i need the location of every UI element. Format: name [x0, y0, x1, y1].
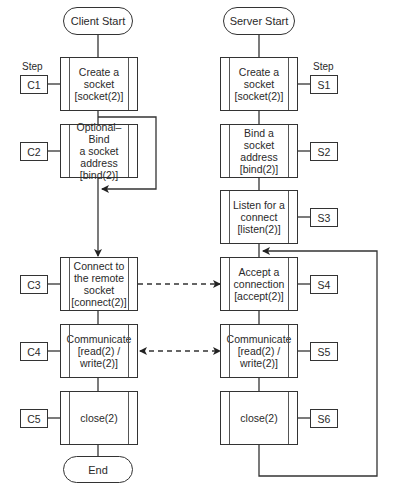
step-label-s5: S5	[310, 342, 338, 361]
c5-text: close(2)	[71, 412, 126, 424]
step-label-s4: S4	[310, 275, 338, 294]
client-end-terminal: End	[63, 456, 133, 483]
server-step-s2: Bind a socket address [bind(2)]	[220, 124, 298, 178]
server-start-terminal: Server Start	[223, 7, 295, 35]
s3-text: Listen for a connect [listen(2)]	[224, 199, 294, 235]
step-label-s3: S3	[310, 208, 338, 227]
server-step-s5: Communicate [read(2) / write(2)]	[220, 324, 298, 378]
client-step-c5: close(2)	[60, 391, 138, 445]
step-label-s1: S1	[310, 75, 338, 94]
step-label-c3: C3	[20, 275, 48, 294]
client-step-c1: Create a socket [socket(2)]	[60, 57, 138, 111]
s6-text: close(2)	[231, 412, 286, 424]
step-label-c2: C2	[20, 142, 48, 161]
s2-text: Bind a socket address [bind(2)]	[221, 127, 297, 175]
s4-text: Accept a connection [accept(2)]	[225, 266, 294, 302]
c2-text: Optional–Bind a socket address [bind(2)]	[61, 121, 137, 181]
c3-text: Connect to the remote socket [connect(2)…	[62, 260, 135, 308]
server-step-heading: Step	[313, 61, 334, 72]
c1-text: Create a socket [socket(2)]	[65, 66, 132, 102]
s5-text: Communicate [read(2) / write(2)]	[218, 333, 301, 369]
step-label-s2: S2	[310, 142, 338, 161]
step-label-c5: C5	[20, 409, 48, 428]
server-step-s6: close(2)	[220, 391, 298, 445]
client-start-terminal: Client Start	[63, 7, 133, 35]
socket-flowchart: Client Start Step Create a socket [socke…	[0, 0, 394, 496]
client-step-c3: Connect to the remote socket [connect(2)…	[60, 257, 138, 311]
step-label-c1: C1	[20, 75, 48, 94]
c4-text: Communicate [read(2) / write(2)]	[58, 333, 141, 369]
server-step-s3: Listen for a connect [listen(2)]	[220, 190, 298, 244]
step-label-s6: S6	[310, 409, 338, 428]
client-step-heading: Step	[22, 61, 43, 72]
client-step-c2: Optional–Bind a socket address [bind(2)]	[60, 124, 138, 178]
s1-text: Create a socket [socket(2)]	[225, 66, 292, 102]
client-step-c4: Communicate [read(2) / write(2)]	[60, 324, 138, 378]
server-step-s1: Create a socket [socket(2)]	[220, 57, 298, 111]
server-step-s4: Accept a connection [accept(2)]	[220, 257, 298, 311]
step-label-c4: C4	[20, 342, 48, 361]
